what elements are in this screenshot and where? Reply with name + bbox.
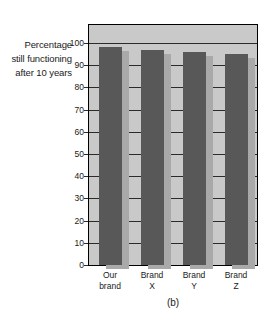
y-axis-tick-label: 60 — [58, 128, 84, 137]
x-axis-tick-label: BrandZ — [212, 270, 260, 292]
x-axis-tick-label: BrandX — [128, 270, 176, 292]
figure-caption: (b) — [88, 297, 258, 308]
bar-chart-figure: Percentage still functioning after 10 ye… — [0, 0, 270, 321]
bar-column — [225, 54, 248, 265]
y-axis-tick-label: 10 — [58, 239, 84, 248]
bar-column — [183, 52, 206, 265]
y-axis-tick-mark — [84, 265, 88, 266]
x-axis-tick-label-line: Brand — [128, 270, 176, 281]
y-axis-tick-mark — [84, 243, 88, 244]
y-axis-tick-label: 20 — [58, 217, 84, 226]
y-axis-tick-label: 40 — [58, 172, 84, 181]
y-axis-tick-label: 0 — [58, 261, 84, 270]
y-axis-tick-mark — [84, 65, 88, 66]
y-axis-tick-mark — [84, 176, 88, 177]
bar — [183, 52, 206, 265]
gridline — [89, 43, 257, 44]
x-axis-tick-label-line: Our — [86, 270, 134, 281]
y-axis-tick-label: 70 — [58, 106, 84, 115]
y-axis-tick-mark — [84, 221, 88, 222]
x-axis-tick-label-line: brand — [86, 281, 134, 292]
y-axis-tick-label: 50 — [58, 150, 84, 159]
y-axis-tick-mark — [84, 154, 88, 155]
bar — [225, 54, 248, 265]
bar-column — [141, 50, 164, 265]
x-axis-tick-label: Ourbrand — [86, 270, 134, 292]
y-axis-tick-label: 90 — [58, 61, 84, 70]
y-axis-tick-label: 80 — [58, 83, 84, 92]
x-axis-tick-label-line: Brand — [212, 270, 260, 281]
y-axis-tick-label: 30 — [58, 194, 84, 203]
x-axis-tick-label-line: Z — [212, 281, 260, 292]
bar-column — [99, 47, 122, 265]
x-axis-tick-label-line: X — [128, 281, 176, 292]
bar — [141, 50, 164, 265]
bar — [99, 47, 122, 265]
y-axis-tick-label: 100 — [58, 39, 84, 48]
y-axis-tick-mark — [84, 198, 88, 199]
y-axis-tick-mark — [84, 132, 88, 133]
x-axis-tick-label-line: Brand — [170, 270, 218, 281]
y-axis-tick-mark — [84, 43, 88, 44]
x-axis-tick-label: BrandY — [170, 270, 218, 292]
plot-area — [88, 24, 258, 266]
y-axis-tick-mark — [84, 87, 88, 88]
x-axis-tick-label-line: Y — [170, 281, 218, 292]
y-axis-tick-mark — [84, 110, 88, 111]
